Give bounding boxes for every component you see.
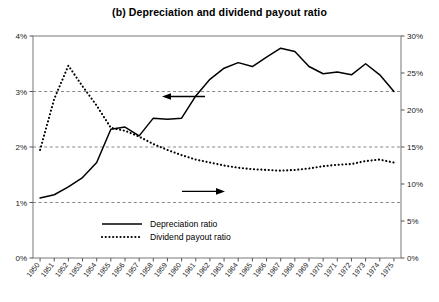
x-axis-tick-label: 1961 xyxy=(180,261,197,279)
legend-label: Dividend payout ratio xyxy=(150,232,231,242)
x-axis-tick-label: 1952 xyxy=(53,261,70,279)
legend-label: Depreciation ratio xyxy=(150,219,218,229)
left-axis-tick-label: 4% xyxy=(15,32,27,41)
left-axis-arrow xyxy=(162,93,205,100)
left-axis-tick-label: 1% xyxy=(15,199,27,208)
x-axis-tick-label: 1957 xyxy=(124,261,141,279)
right-axis-tick-label: 20% xyxy=(407,106,423,115)
x-axis-tick-label: 1974 xyxy=(364,261,381,279)
arrow-head xyxy=(162,93,171,100)
x-axis-tick-label: 1955 xyxy=(95,261,112,279)
legend-item: Depreciation ratio xyxy=(102,219,218,229)
x-axis-tick-label: 1951 xyxy=(39,261,56,279)
x-axis-tick-label: 1958 xyxy=(138,261,155,279)
x-axis-tick-label: 1950 xyxy=(25,261,42,279)
left-axis-tick-label: 3% xyxy=(15,88,27,97)
right-axis-tick-label: 30% xyxy=(407,32,423,41)
x-axis-tick-label: 1968 xyxy=(279,261,296,279)
chart-canvas: 0%1%2%3%4%0%5%10%15%20%25%30%19501951195… xyxy=(0,0,439,302)
right-axis-tick-label: 10% xyxy=(407,180,423,189)
arrow-head xyxy=(216,188,225,195)
right-axis-arrow xyxy=(182,188,225,195)
x-axis-tick-label: 1975 xyxy=(378,261,395,279)
x-axis-tick-label: 1964 xyxy=(223,261,240,279)
x-axis-tick-label: 1971 xyxy=(322,261,339,279)
left-axis-tick-label: 0% xyxy=(15,254,27,263)
x-axis-tick-label: 1966 xyxy=(251,261,268,279)
right-axis-tick-label: 0% xyxy=(407,254,419,263)
x-axis-tick-label: 1970 xyxy=(308,261,325,279)
x-axis-tick-label: 1953 xyxy=(67,261,84,279)
right-axis-tick-label: 15% xyxy=(407,143,423,152)
x-axis-tick-label: 1973 xyxy=(350,261,367,279)
x-axis-tick-label: 1965 xyxy=(237,261,254,279)
left-axis-tick-label: 2% xyxy=(15,143,27,152)
series-line-dividend-payout-ratio xyxy=(40,66,394,171)
x-axis-tick-label: 1969 xyxy=(293,261,310,279)
x-axis-tick-label: 1959 xyxy=(152,261,169,279)
x-axis-tick-label: 1967 xyxy=(265,261,282,279)
legend-item: Dividend payout ratio xyxy=(102,232,231,242)
x-axis-tick-label: 1962 xyxy=(194,261,211,279)
x-axis-tick-label: 1960 xyxy=(166,261,183,279)
x-axis-tick-label: 1956 xyxy=(109,261,126,279)
series-line-depreciation-ratio xyxy=(40,48,394,198)
x-axis-tick-label: 1963 xyxy=(209,261,226,279)
right-axis-tick-label: 25% xyxy=(407,69,423,78)
x-axis-tick-label: 1972 xyxy=(336,261,353,279)
chart-figure: (b) Depreciation and dividend payout rat… xyxy=(0,0,439,302)
right-axis-tick-label: 5% xyxy=(407,217,419,226)
x-axis-tick-label: 1954 xyxy=(81,261,98,279)
